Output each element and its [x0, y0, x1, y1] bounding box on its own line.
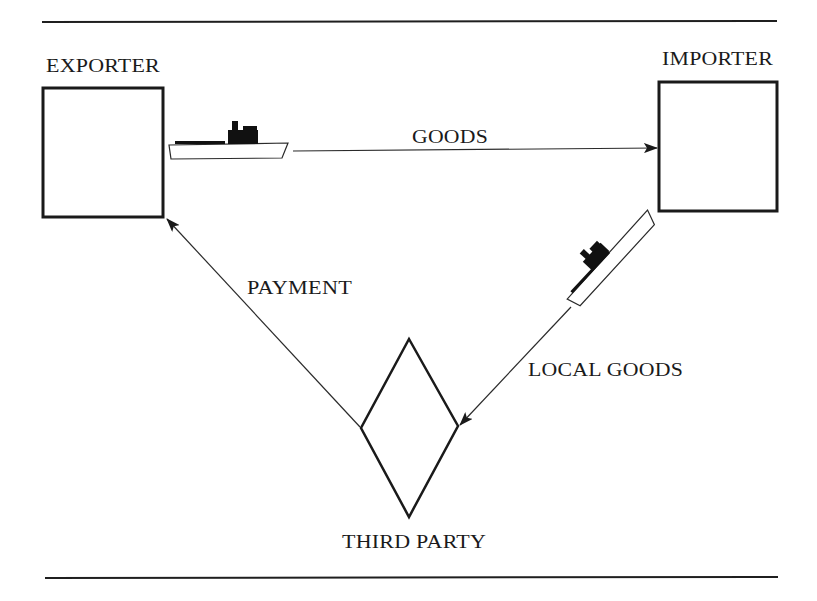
payment-flow: PAYMENT [167, 219, 360, 427]
top-rule [42, 21, 777, 22]
goods-flow: GOODS [169, 121, 657, 159]
third-party-label: THIRD PARTY [342, 531, 486, 552]
importer-node: IMPORTER [659, 48, 777, 211]
local-goods-flow: LOCAL GOODS [460, 196, 683, 425]
importer-label: IMPORTER [662, 48, 773, 69]
local-goods-label: LOCAL GOODS [528, 359, 683, 380]
exporter-label: EXPORTER [46, 55, 160, 76]
importer-box [659, 82, 777, 211]
third-party-diamond [361, 339, 458, 517]
goods-label: GOODS [412, 126, 488, 147]
third-party-node: THIRD PARTY [342, 339, 486, 552]
payment-label: PAYMENT [247, 277, 352, 298]
bottom-rule [45, 577, 778, 578]
exporter-box [43, 88, 163, 217]
ship-icon [551, 196, 659, 308]
exporter-node: EXPORTER [43, 55, 163, 217]
goods-arrow [293, 148, 657, 151]
ship-icon [169, 121, 288, 159]
payment-arrow [167, 219, 360, 427]
countertrade-triangle-diagram: EXPORTER IMPORTER GOODS LOCAL GOODS [0, 0, 817, 601]
